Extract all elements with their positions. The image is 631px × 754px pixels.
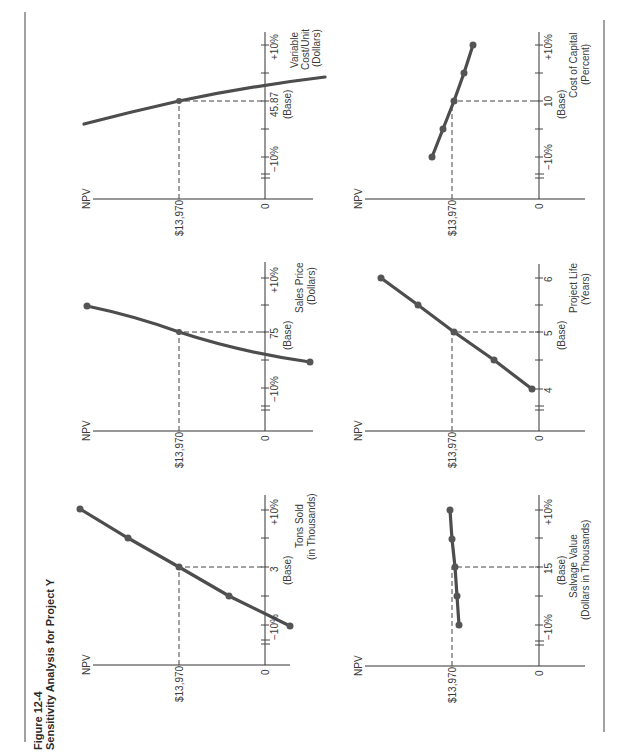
- figure-caption: Sensitivity Analysis for Project Y: [44, 578, 56, 750]
- x-axis-unit: (Dollars): [311, 29, 322, 67]
- panel-salvage-value: NPV $13,970 0 −10% 15 (Base) +10% Salvag…: [353, 495, 591, 703]
- base-x-label: 45.87: [269, 92, 280, 117]
- panel-tons-sold: NPV $13,970 0 −10% 3 (Base) +10% Tons So…: [77, 493, 318, 702]
- zero-label: 0: [534, 203, 545, 209]
- x-axis-unit: (in Thousands): [306, 493, 317, 560]
- base-tag: (Base): [282, 556, 293, 585]
- x-axis-unit: (Years): [580, 273, 591, 305]
- zero-label: 0: [260, 669, 271, 675]
- x-axis-title: Cost of Capital: [568, 32, 579, 98]
- minus10-label: −10%: [543, 614, 554, 640]
- plus10-label: +10%: [543, 499, 554, 525]
- base-tag: (Base): [556, 556, 567, 585]
- base-guide: [179, 567, 265, 665]
- x-axis-unit: (Percent): [580, 44, 591, 85]
- minus10-label: −10%: [269, 146, 280, 172]
- figure-title: Figure 12-4 Sensitivity Analysis for Pro…: [32, 578, 56, 750]
- minus10-label: −10%: [269, 376, 280, 402]
- plus10-label: +10%: [543, 34, 554, 60]
- npv-label: NPV: [81, 654, 92, 675]
- zero-label: 0: [260, 203, 271, 209]
- base-tag: (Base): [282, 90, 293, 119]
- sensitivity-figure: Figure 12-4 Sensitivity Analysis for Pro…: [0, 0, 631, 754]
- base-tag: (Base): [556, 90, 567, 119]
- plus10-label: +10%: [269, 34, 280, 60]
- plus10-label: +10%: [269, 267, 280, 293]
- panel-project-life: NPV $13,970 0 4 5 (Base) 6 Project Life …: [353, 263, 591, 468]
- x-axis-title-2: Cost/Unit: [300, 29, 311, 70]
- minus10-label: −10%: [543, 144, 554, 170]
- base-x-label: 5: [543, 330, 554, 336]
- zero-label: 0: [534, 670, 545, 676]
- minus10-label: −10%: [269, 614, 280, 640]
- zero-label: 0: [260, 435, 271, 441]
- base-x-label: 10: [543, 95, 554, 107]
- tick-low-label: 4: [543, 387, 554, 393]
- base-x-label: 75: [269, 327, 280, 339]
- base-x-label: 3: [269, 566, 280, 572]
- base-npv-label: $13,970: [174, 665, 185, 702]
- plus10-label: +10%: [269, 499, 280, 525]
- npv-label: NPV: [353, 655, 364, 676]
- x-axis-title: Variable: [289, 32, 300, 68]
- x-axis-title: Salvage Value: [568, 534, 579, 598]
- npv-label: NPV: [353, 188, 364, 209]
- panel-sales-price: NPV $13,970 0 −10% 75 (Base) +10% Sales …: [81, 262, 317, 468]
- base-tag: (Base): [556, 321, 567, 350]
- x-axis-title: Sales Price: [294, 262, 305, 313]
- npv-label: NPV: [81, 188, 92, 209]
- x-axis-title: Project Life: [568, 263, 579, 313]
- base-x-label: 15: [543, 562, 554, 574]
- x-axis-unit: (Dollars): [306, 267, 317, 305]
- base-npv-label: $13,970: [447, 666, 458, 703]
- base-npv-label: $13,970: [174, 199, 185, 236]
- base-tag: (Base): [282, 321, 293, 350]
- figure-number: Figure 12-4: [32, 690, 44, 750]
- npv-label: NPV: [81, 420, 92, 441]
- base-npv-label: $13,970: [447, 431, 458, 468]
- x-axis-title: Tons Sold: [294, 504, 305, 548]
- panel-variable-cost: NPV $13,970 0 −10% 45.87 (Base) +10% Var…: [81, 29, 325, 236]
- panel-cost-of-capital: NPV $13,970 0 −10% 10 (Base) +10% Cost o…: [353, 32, 591, 236]
- tick-high-label: 6: [543, 276, 554, 282]
- base-npv-label: $13,970: [174, 431, 185, 468]
- zero-label: 0: [534, 435, 545, 441]
- npv-label: NPV: [353, 420, 364, 441]
- base-npv-label: $13,970: [447, 199, 458, 236]
- x-axis-unit: (Dollars in Thousands): [580, 520, 591, 620]
